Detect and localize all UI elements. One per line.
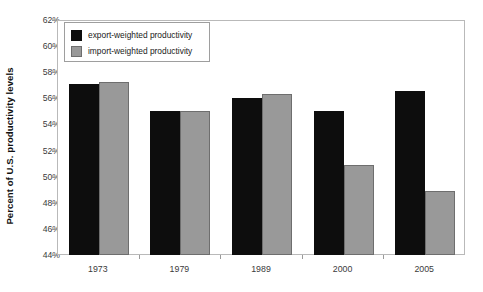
y-axis-title: Percent of U.S. productivity levels xyxy=(0,0,18,292)
bar-2005-import xyxy=(425,191,455,255)
bar-1973-export xyxy=(69,84,99,255)
bar-1989-export xyxy=(232,98,262,255)
legend-swatch-import-icon xyxy=(71,46,82,57)
y-tick-mark xyxy=(52,255,57,256)
legend-swatch-export-icon xyxy=(71,30,82,41)
bar-1973-import xyxy=(99,82,129,255)
x-tick-mark xyxy=(383,255,384,259)
bar-2000-import xyxy=(344,165,374,255)
bar-1989-import xyxy=(262,94,292,255)
legend-label: import-weighted productivity xyxy=(88,46,192,56)
bar-chart: Percent of U.S. productivity levels 62%6… xyxy=(0,0,483,292)
legend-item: import-weighted productivity xyxy=(71,44,203,58)
bar-1979-export xyxy=(150,111,180,255)
x-tick-label: 1979 xyxy=(149,262,209,276)
x-tick-mark xyxy=(302,255,303,259)
legend-label: export-weighted productivity xyxy=(88,30,192,40)
x-tick-mark xyxy=(220,255,221,259)
bar-1979-import xyxy=(180,111,210,255)
x-tick-label: 1973 xyxy=(68,262,128,276)
legend: export-weighted productivity import-weig… xyxy=(64,22,210,62)
x-tick-label: 1989 xyxy=(231,262,291,276)
bar-2000-export xyxy=(314,111,344,255)
bar-2005-export xyxy=(395,91,425,255)
x-tick-label: 2005 xyxy=(394,262,454,276)
x-tick-mark xyxy=(139,255,140,259)
x-tick-label: 2000 xyxy=(313,262,373,276)
legend-item: export-weighted productivity xyxy=(71,28,203,42)
